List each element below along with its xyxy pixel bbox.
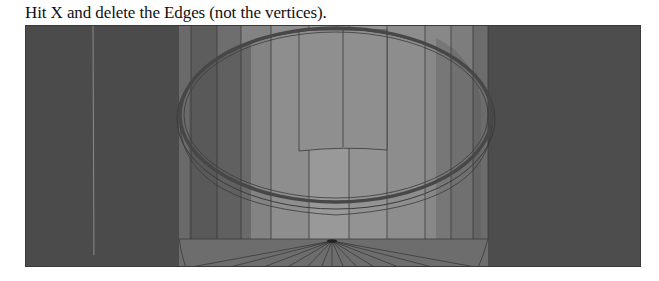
cylinder-mesh (26, 26, 641, 267)
3d-viewport[interactable] (25, 25, 641, 267)
instruction-caption: Hit X and delete the Edges (not the vert… (25, 3, 327, 23)
